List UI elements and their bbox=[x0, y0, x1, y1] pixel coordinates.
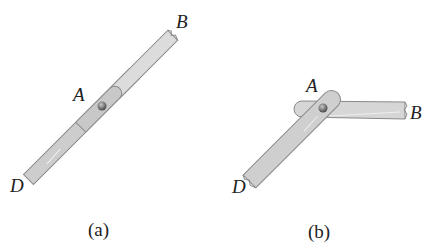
figure-a: B A D (a) bbox=[9, 11, 188, 241]
label-a: A bbox=[304, 75, 318, 96]
pin-a bbox=[98, 102, 107, 111]
figure-b: A B D (b) bbox=[231, 75, 422, 243]
label-d: D bbox=[231, 176, 246, 197]
label-b: B bbox=[176, 11, 188, 32]
bar-da bbox=[242, 87, 345, 190]
pin-a bbox=[319, 104, 328, 113]
label-b: B bbox=[410, 102, 422, 123]
label-d: D bbox=[9, 175, 24, 196]
diagram-canvas: B A D (a) A B D (b) bbox=[0, 0, 434, 251]
label-a: A bbox=[71, 84, 85, 105]
caption-b: (b) bbox=[308, 221, 330, 243]
caption-a: (a) bbox=[88, 219, 109, 241]
